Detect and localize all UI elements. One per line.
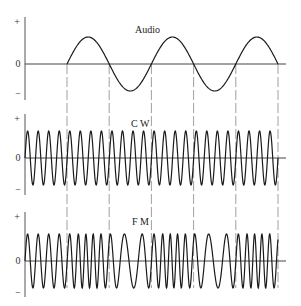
- panel-audio: + 0 − Audio: [14, 16, 286, 100]
- audio-label: Audio: [135, 24, 160, 35]
- audio-tick-plus: +: [14, 16, 20, 27]
- audio-tick-zero: 0: [16, 58, 21, 69]
- cw-label: C W: [131, 118, 150, 129]
- modulation-diagram: + 0 − Audio + 0 − C W + 0 − F M: [0, 0, 301, 306]
- cw-tick-zero: 0: [16, 152, 21, 163]
- fm-tick-minus: −: [15, 287, 21, 298]
- fm-tick-zero: 0: [16, 255, 21, 266]
- panel-fm: + 0 − F M: [14, 211, 286, 298]
- audio-tick-minus: −: [15, 88, 21, 99]
- cw-tick-minus: −: [15, 184, 21, 195]
- fm-tick-plus: +: [14, 211, 20, 222]
- cw-tick-plus: +: [14, 113, 20, 124]
- panel-cw: + 0 − C W: [14, 113, 286, 195]
- fm-label: F M: [132, 216, 149, 227]
- zero-crossing-markers: [67, 64, 278, 288]
